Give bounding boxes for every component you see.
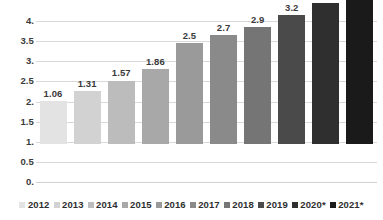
legend-swatch-icon (88, 202, 94, 208)
legend-swatch-icon (156, 202, 162, 208)
legend-item-2017[interactable]: 2017 (190, 200, 220, 210)
legend-swatch-icon (19, 202, 25, 208)
y-axis-tick-label: 2.5 (0, 77, 34, 87)
legend-label: 2016 (164, 200, 186, 210)
legend-item-2014[interactable]: 2014 (88, 200, 118, 210)
legend-label: 2018 (232, 200, 254, 210)
legend-item-2021-est[interactable]: 2021* (330, 200, 364, 210)
bar-value-label: 1.31 (78, 79, 97, 89)
bar-group: 1.31 (74, 91, 101, 144)
legend-label: 2014 (96, 200, 118, 210)
bar (210, 35, 237, 144)
bar-group: 2.5 (176, 43, 203, 144)
bar-value-label: 3.2 (285, 3, 299, 13)
bar-value-label: 1.57 (112, 68, 131, 78)
bar (74, 91, 101, 144)
bar-value-label: 2.7 (217, 23, 231, 33)
legend-label: 2019 (266, 200, 288, 210)
bar-group: 1.86 (142, 69, 169, 144)
bar-group: 3.8 (346, 0, 373, 144)
legend-item-2018[interactable]: 2018 (224, 200, 254, 210)
legend-swatch-icon (224, 202, 230, 208)
y-axis-tick-label: 4. (0, 16, 34, 26)
bar-group: 3.5 (312, 3, 339, 144)
legend-swatch-icon (330, 202, 336, 208)
legend-label: 2021* (338, 200, 363, 210)
bar-value-label: 1.86 (146, 57, 165, 67)
legend-item-2013[interactable]: 2013 (54, 200, 84, 210)
bar-value-label: 2.5 (183, 31, 197, 41)
legend-swatch-icon (54, 202, 60, 208)
bars-layer: 1.061.311.571.862.52.72.93.23.53.8 (36, 0, 377, 182)
bar-group: 2.9 (244, 27, 271, 144)
gridline (36, 182, 377, 183)
bar (176, 43, 203, 144)
bar (278, 15, 305, 144)
legend-item-2016[interactable]: 2016 (156, 200, 186, 210)
y-axis-tick-label: 2. (0, 97, 34, 107)
y-axis-tick-label: 1.5 (0, 117, 34, 127)
legend-swatch-icon (258, 202, 264, 208)
bar (346, 0, 373, 144)
legend-item-2020-est[interactable]: 2020* (292, 200, 326, 210)
y-axis-tick-label: 0.5 (0, 157, 34, 167)
bar-group: 1.57 (108, 81, 135, 144)
bar-value-label: 1.06 (44, 89, 63, 99)
y-axis-tick-label: 1. (0, 137, 34, 147)
legend-item-2019[interactable]: 2019 (258, 200, 288, 210)
bar-group: 1.06 (40, 101, 67, 144)
bar-group: 2.7 (210, 35, 237, 144)
legend-swatch-icon (122, 202, 128, 208)
legend-swatch-icon (292, 202, 298, 208)
legend-swatch-icon (190, 202, 196, 208)
bar-group: 3.2 (278, 15, 305, 144)
bar (108, 81, 135, 144)
y-axis-tick-label: 0. (0, 177, 34, 187)
legend-label: 2015 (130, 200, 152, 210)
bar (142, 69, 169, 144)
bar (312, 3, 339, 144)
y-axis: 0.0.51.1.52.2.53.3.54. (0, 0, 34, 220)
legend-label: 2012 (28, 200, 50, 210)
legend-item-2012[interactable]: 2012 (19, 200, 49, 210)
y-axis-tick-label: 3.5 (0, 36, 34, 46)
bar-value-label: 2.9 (251, 15, 265, 25)
legend-label: 2020* (300, 200, 325, 210)
y-axis-tick-label: 3. (0, 57, 34, 67)
bar (40, 101, 67, 144)
legend-item-2015[interactable]: 2015 (122, 200, 152, 210)
bar-chart: 0.0.51.1.52.2.53.3.54. 1.061.311.571.862… (0, 0, 383, 220)
bar (244, 27, 271, 144)
legend-label: 2017 (198, 200, 220, 210)
chart-legend: 201220132014201520162017201820192020*202… (0, 197, 383, 213)
legend-label: 2013 (62, 200, 84, 210)
